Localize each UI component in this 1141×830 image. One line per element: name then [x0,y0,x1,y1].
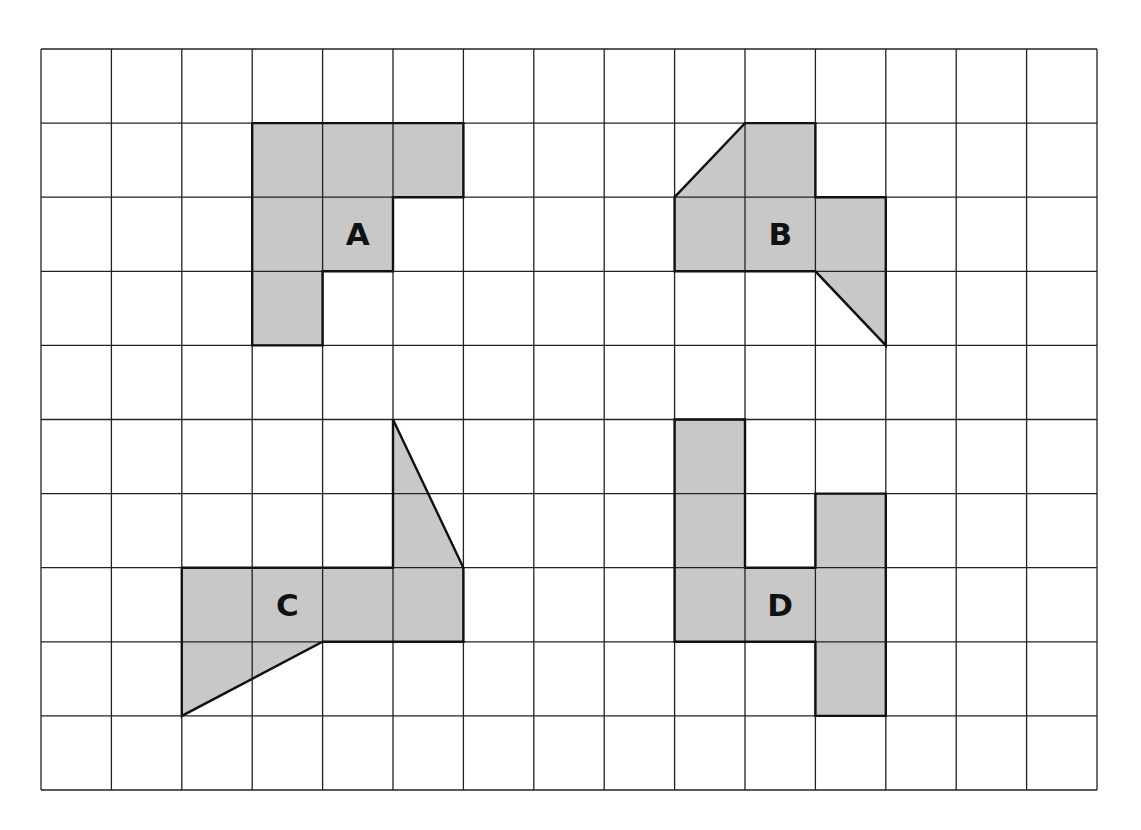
grid-diagram: A B C D [0,0,1141,830]
shape-label-c: C [276,587,299,623]
shape-label-b: B [768,216,792,252]
shape-label-a: A [346,216,370,252]
shape-label-d: D [767,587,793,623]
background [0,0,1141,830]
